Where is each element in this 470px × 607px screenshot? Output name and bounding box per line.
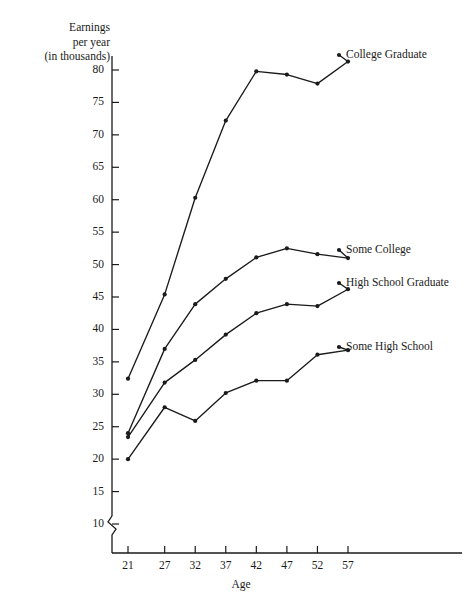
data-point-marker — [163, 347, 167, 351]
y-tick-label: 55 — [70, 226, 104, 238]
series-line — [128, 62, 348, 379]
data-point-marker — [163, 405, 167, 409]
series-line — [128, 350, 348, 459]
data-point-marker — [254, 69, 258, 73]
data-point-marker — [315, 82, 319, 86]
y-tick-label: 20 — [70, 453, 104, 465]
y-tick-label: 45 — [70, 291, 104, 303]
y-tick-label: 25 — [70, 421, 104, 433]
data-point-marker — [163, 292, 167, 296]
data-point-marker — [126, 435, 130, 439]
series-label-anchor-dot — [337, 345, 341, 349]
y-tick-label: 15 — [70, 486, 104, 498]
earnings-by-education-line-chart: Earnings per year (in thousands) 1015202… — [0, 0, 470, 607]
data-point-marker — [315, 252, 319, 256]
series-label-college-graduate: College Graduate — [346, 49, 427, 61]
series-label-some-college: Some College — [346, 244, 411, 256]
series-line — [128, 248, 348, 433]
x-tick-label: 21 — [113, 560, 143, 572]
data-point-marker — [285, 379, 289, 383]
y-axis-break-symbol — [108, 516, 116, 553]
data-point-marker — [126, 457, 130, 461]
series-label-anchor-dot — [337, 281, 341, 285]
chart-canvas — [0, 0, 470, 607]
x-tick-label: 42 — [241, 560, 271, 572]
y-tick-label: 30 — [70, 388, 104, 400]
y-tick-label: 60 — [70, 194, 104, 206]
data-point-marker — [254, 311, 258, 315]
x-tick-label: 27 — [150, 560, 180, 572]
y-tick-label: 75 — [70, 96, 104, 108]
label-leader-lines-group — [337, 53, 348, 350]
data-point-marker — [224, 118, 228, 122]
y-tick-label: 40 — [70, 323, 104, 335]
series-label-some-high-school: Some High School — [346, 341, 433, 353]
data-point-marker — [224, 333, 228, 337]
x-tick-label: 32 — [180, 560, 210, 572]
data-point-marker — [224, 391, 228, 395]
tick-marks-group — [112, 70, 348, 553]
data-point-marker — [163, 381, 167, 385]
series-line — [128, 289, 348, 437]
series-label-anchor-dot — [337, 248, 341, 252]
data-point-marker — [254, 255, 258, 259]
x-axis-title: Age — [0, 578, 470, 590]
data-point-marker — [315, 353, 319, 357]
data-point-marker — [193, 419, 197, 423]
data-point-marker — [193, 196, 197, 200]
data-point-marker — [285, 72, 289, 76]
y-tick-label: 35 — [70, 356, 104, 368]
data-point-marker — [254, 379, 258, 383]
y-tick-label: 70 — [70, 129, 104, 141]
y-tick-label: 80 — [70, 64, 104, 76]
x-tick-label: 52 — [302, 560, 332, 572]
y-tick-label: 10 — [70, 518, 104, 530]
x-axis-title-text: Age — [231, 578, 250, 590]
series-label-anchor-dot — [337, 53, 341, 57]
data-point-marker — [285, 246, 289, 250]
data-point-marker — [126, 377, 130, 381]
y-tick-label: 65 — [70, 161, 104, 173]
data-point-marker — [224, 277, 228, 281]
y-tick-label: 50 — [70, 259, 104, 271]
data-series-group — [126, 59, 350, 461]
series-label-high-school-graduate: High School Graduate — [346, 277, 449, 289]
data-point-marker — [193, 302, 197, 306]
data-point-marker — [285, 302, 289, 306]
x-tick-label: 47 — [272, 560, 302, 572]
x-tick-label: 37 — [211, 560, 241, 572]
x-tick-label: 57 — [333, 560, 363, 572]
data-point-marker — [315, 304, 319, 308]
data-point-marker — [193, 358, 197, 362]
